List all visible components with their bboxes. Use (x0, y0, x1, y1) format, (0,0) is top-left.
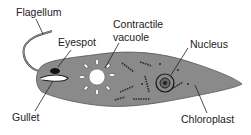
gullet (40, 75, 68, 81)
eyespot (50, 68, 60, 74)
label-contractile-vacuole-line2: vacuole (113, 32, 149, 43)
nucleus (156, 74, 174, 92)
label-contractile-vacuole-line1: Contractile (113, 19, 163, 30)
label-nucleus: Nucleus (190, 39, 228, 50)
label-flagellum: Flagellum (16, 7, 62, 18)
label-chloroplast: Chloroplast (181, 114, 234, 125)
label-gullet: Gullet (12, 112, 39, 123)
label-eyespot: Eyespot (58, 37, 96, 48)
